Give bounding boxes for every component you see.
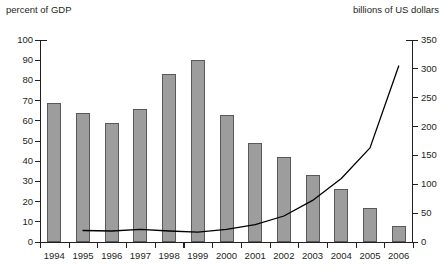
chart-container: percent of GDP billions of US dollars 01… (0, 0, 445, 268)
line-series (0, 0, 445, 268)
line-series-path (83, 66, 399, 232)
